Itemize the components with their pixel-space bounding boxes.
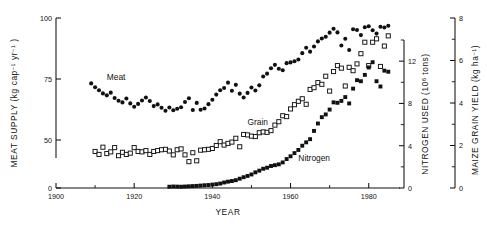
data-point bbox=[277, 120, 281, 124]
data-point bbox=[351, 69, 355, 73]
nitrogen-tick-label: 0 bbox=[408, 184, 412, 193]
data-point bbox=[288, 107, 292, 111]
data-point bbox=[367, 66, 371, 70]
data-point bbox=[304, 46, 308, 50]
data-point bbox=[343, 84, 347, 88]
data-point bbox=[269, 129, 273, 133]
data-point bbox=[253, 170, 257, 174]
data-point bbox=[378, 64, 382, 68]
data-point bbox=[203, 183, 207, 187]
data-point bbox=[230, 179, 234, 183]
data-point bbox=[312, 129, 316, 133]
data-point bbox=[339, 44, 343, 48]
x-tick-label: 1940 bbox=[204, 192, 220, 201]
data-point bbox=[363, 73, 367, 77]
data-point bbox=[371, 60, 375, 64]
data-point bbox=[296, 57, 300, 61]
series-meat bbox=[89, 24, 390, 113]
data-point bbox=[335, 30, 339, 34]
data-point bbox=[261, 75, 265, 79]
data-point bbox=[343, 37, 347, 41]
data-point bbox=[234, 136, 238, 140]
series-nitrogen bbox=[167, 60, 390, 188]
data-point bbox=[128, 151, 132, 155]
data-point bbox=[379, 85, 383, 89]
data-point bbox=[210, 98, 214, 102]
figure-container: 19001920194019601980YEAR10075500MEAT SUP… bbox=[0, 0, 487, 229]
data-point bbox=[374, 37, 378, 41]
data-point bbox=[308, 50, 312, 54]
data-point bbox=[320, 82, 324, 86]
data-point bbox=[324, 112, 328, 116]
data-point bbox=[101, 145, 105, 149]
data-point bbox=[199, 108, 203, 112]
data-point bbox=[265, 166, 269, 170]
data-point bbox=[288, 60, 292, 64]
x-tick-label: 1920 bbox=[126, 192, 142, 201]
data-point bbox=[136, 102, 140, 106]
data-point bbox=[374, 32, 378, 36]
data-point bbox=[105, 93, 109, 97]
maize-tick-label: 6 bbox=[459, 56, 463, 65]
data-point bbox=[304, 140, 308, 144]
data-point bbox=[320, 115, 324, 119]
data-point bbox=[347, 101, 351, 105]
data-point bbox=[351, 87, 355, 91]
data-point bbox=[343, 95, 347, 99]
meat-tick-label: 100 bbox=[40, 14, 52, 23]
data-point bbox=[97, 152, 101, 156]
maize-tick-label: 4 bbox=[459, 99, 463, 108]
data-point bbox=[191, 108, 195, 112]
data-point bbox=[265, 72, 269, 76]
data-point bbox=[187, 96, 191, 100]
data-point bbox=[89, 81, 93, 85]
data-point bbox=[328, 89, 332, 93]
maize-tick-label: 0 bbox=[459, 184, 463, 193]
data-point bbox=[116, 99, 120, 103]
meat-axis-title: MEAT SUPPLY (kg cap−1 yr−1 ) bbox=[9, 38, 19, 167]
data-point bbox=[144, 95, 148, 99]
series-label-meat: Meat bbox=[107, 72, 126, 82]
nitrogen-tick-label: 12 bbox=[408, 57, 416, 66]
nitrogen-tick-label: 4 bbox=[408, 142, 412, 151]
data-point bbox=[191, 151, 195, 155]
data-point bbox=[367, 24, 371, 28]
meat-tick-label: 50 bbox=[44, 136, 52, 145]
data-point bbox=[300, 51, 304, 55]
data-point bbox=[312, 86, 316, 90]
data-point bbox=[285, 61, 289, 65]
data-point bbox=[120, 100, 124, 104]
data-point bbox=[285, 157, 289, 161]
data-point bbox=[97, 88, 101, 92]
data-point bbox=[113, 96, 117, 100]
data-point bbox=[222, 86, 226, 90]
data-point bbox=[277, 162, 281, 166]
data-point bbox=[187, 160, 191, 164]
data-point bbox=[246, 174, 250, 178]
data-point bbox=[124, 96, 128, 100]
data-point bbox=[363, 40, 367, 44]
x-tick-label: 1960 bbox=[283, 192, 299, 201]
data-point bbox=[347, 48, 351, 52]
data-point bbox=[234, 83, 238, 87]
data-point bbox=[226, 180, 230, 184]
data-point bbox=[167, 105, 171, 109]
data-point bbox=[218, 88, 222, 92]
data-point bbox=[324, 74, 328, 78]
data-point bbox=[242, 95, 246, 99]
data-point bbox=[328, 108, 332, 112]
data-point bbox=[234, 178, 238, 182]
data-point bbox=[308, 137, 312, 141]
data-point bbox=[187, 184, 191, 188]
data-point bbox=[386, 24, 390, 28]
data-point bbox=[163, 109, 167, 113]
data-point bbox=[152, 104, 156, 108]
data-point bbox=[183, 153, 187, 157]
data-point bbox=[324, 35, 328, 39]
data-point bbox=[242, 175, 246, 179]
data-point bbox=[371, 28, 375, 32]
data-point bbox=[300, 144, 304, 148]
data-point bbox=[359, 79, 363, 83]
data-point bbox=[269, 164, 273, 168]
data-point bbox=[331, 70, 335, 74]
